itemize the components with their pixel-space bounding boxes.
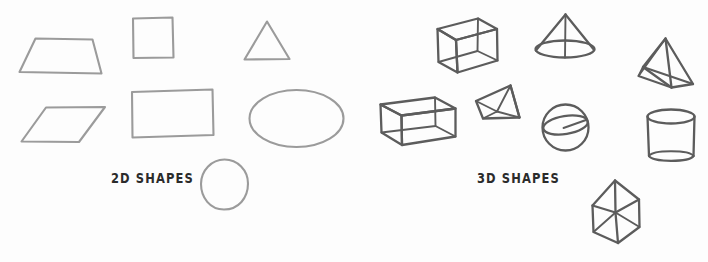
pyramid-shape xyxy=(476,86,520,119)
triangle-shape xyxy=(245,22,290,60)
caption-2d-shapes: 2D SHAPES xyxy=(111,170,194,187)
triangular-prism-shape xyxy=(593,181,640,244)
shapes-illustration: 2D SHAPES 3D SHAPES xyxy=(0,0,708,262)
rectangle-shape xyxy=(132,90,214,138)
cube-shape xyxy=(438,19,498,73)
ellipse-shape xyxy=(250,90,344,147)
trapezoid-shape xyxy=(20,39,102,74)
circle-shape xyxy=(201,160,248,210)
cuboid-shape xyxy=(381,98,456,146)
cylinder-shape xyxy=(648,110,695,161)
sphere-shape xyxy=(542,105,589,151)
shapes-drawing-canvas xyxy=(0,0,708,262)
cone-shape xyxy=(536,15,595,58)
caption-3d-shapes: 3D SHAPES xyxy=(477,170,560,187)
square-shape xyxy=(133,18,174,59)
tetrahedron-shape xyxy=(639,39,694,88)
parallelogram-shape xyxy=(22,107,106,142)
three-d-shapes-group xyxy=(381,15,695,244)
